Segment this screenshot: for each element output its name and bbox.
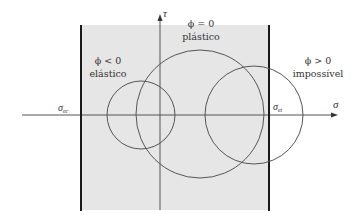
tau-label: τ <box>163 7 168 19</box>
sigma-label: σ <box>333 98 339 110</box>
plastic-label: plástico <box>182 31 220 42</box>
sigma-et-label: σet <box>273 101 283 113</box>
plastic-condition: ϕ = 0 <box>188 18 215 29</box>
elastic-label: elástico <box>89 68 126 79</box>
impossible-condition: ϕ > 0 <box>305 55 332 66</box>
tau-axis-arrow-icon <box>158 14 163 21</box>
elastic-condition: ϕ < 0 <box>95 55 122 66</box>
sigma-ec-label: σec <box>58 102 69 114</box>
mohr-diagram: τ σ σec σet ϕ < 0 elástico ϕ = 0 plástic… <box>0 0 363 221</box>
sigma-axis-arrow-icon <box>331 113 338 118</box>
impossible-label: impossível <box>293 68 344 79</box>
